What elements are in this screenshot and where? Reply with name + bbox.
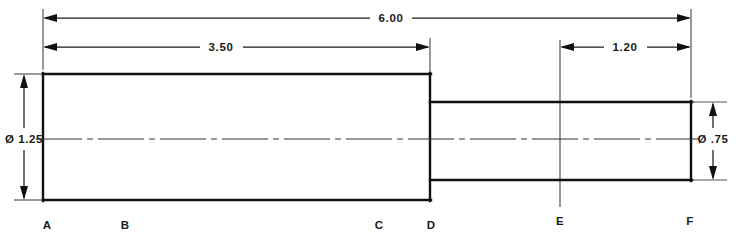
arrowhead-left-120 — [560, 43, 574, 51]
dimension-large-diameter: Ø 1.25 — [5, 74, 43, 200]
point-label-f: F — [686, 215, 693, 227]
stepped-shaft-drawing: 6.00 3.50 1.20 Ø 1.25 — [0, 0, 738, 235]
dimension-label-large-section-length: 3.50 — [209, 41, 234, 53]
arrowhead-left-overall — [43, 14, 57, 22]
arrowhead-right-350 — [416, 43, 430, 51]
point-labels: A B C D E F — [43, 215, 694, 231]
point-label-d: D — [427, 219, 436, 231]
point-label-c: C — [375, 219, 384, 231]
arrowhead-right-overall — [677, 14, 691, 22]
arrowhead-right-120 — [677, 43, 691, 51]
arrowhead-top-075 — [709, 102, 717, 116]
point-label-a: A — [43, 219, 52, 231]
dimension-small-step-length: 1.20 — [560, 41, 691, 53]
arrowhead-bottom-125 — [20, 186, 28, 200]
dimension-label-overall-length: 6.00 — [379, 12, 404, 24]
dimension-label-small-step-length: 1.20 — [613, 41, 638, 53]
point-label-e: E — [556, 215, 564, 227]
extension-lines — [14, 9, 727, 207]
dimension-small-diameter: Ø .75 — [697, 102, 728, 180]
dimension-overall-length: 6.00 — [43, 12, 691, 24]
arrowhead-left-350 — [43, 43, 57, 51]
arrowhead-top-125 — [20, 74, 28, 88]
dimension-large-section-length: 3.50 — [43, 41, 430, 53]
arrowhead-bottom-075 — [709, 166, 717, 180]
shaft-outline — [43, 73, 692, 201]
technical-drawing-canvas: 6.00 3.50 1.20 Ø 1.25 — [0, 0, 738, 235]
point-label-b: B — [121, 219, 130, 231]
dimension-label-small-diameter: Ø .75 — [697, 133, 728, 145]
